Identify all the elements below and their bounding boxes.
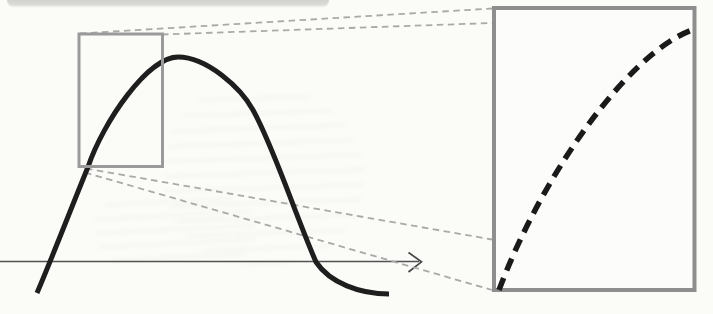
figure-canvas — [0, 0, 713, 314]
zoom-connector-top-inner — [162, 23, 492, 35]
main-curve — [37, 57, 389, 294]
zoom-inset-diagram — [0, 0, 713, 314]
zoom-inset-rectangle — [494, 8, 695, 290]
zoom-connector-bottom-inner — [86, 169, 492, 240]
